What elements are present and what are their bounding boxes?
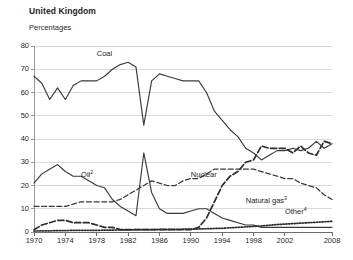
- y-axis-tick-label: 30: [7, 157, 29, 166]
- series-line-coal: [34, 62, 332, 160]
- series-annotation-other: Other4: [285, 207, 307, 216]
- x-axis-tick-label: 2008: [312, 236, 352, 245]
- series-annotation-text: Natural gas: [246, 196, 284, 205]
- gridlines: [34, 46, 332, 209]
- series-annotation-text: Nuclear: [191, 170, 217, 179]
- series-annotation-oil: Oil2: [81, 170, 93, 179]
- y-axis-tick-label: 40: [7, 134, 29, 143]
- y-axis-tick-label: 80: [7, 41, 29, 50]
- series-annotation-text: Oil: [81, 170, 90, 179]
- page-title: United Kingdom: [29, 6, 96, 16]
- chart-svg: [34, 46, 332, 232]
- series-annotation-coal: Coal: [97, 49, 112, 58]
- plot-area: [34, 46, 332, 232]
- y-axis-tick-label: 50: [7, 111, 29, 120]
- x-axis-tick-label: 2002: [265, 236, 305, 245]
- series-annotation-footnote-marker: 4: [304, 206, 307, 212]
- series-annotation-footnote-marker: 2: [90, 169, 93, 175]
- series-annotation-nuclear: Nuclear: [191, 170, 217, 179]
- chart-subtitle: Percentages: [29, 23, 71, 32]
- y-axis-tick-label: 10: [7, 204, 29, 213]
- series-line-nuclear: [34, 169, 332, 206]
- x-tick-marks: [34, 232, 332, 236]
- chart-container: United Kingdom Percentages 0102030405060…: [0, 0, 353, 260]
- series-annotation-footnote-marker: 3: [284, 194, 287, 200]
- series-annotation-text: Coal: [97, 49, 112, 58]
- y-axis-tick-label: 70: [7, 64, 29, 73]
- series-annotation-text: Other: [285, 207, 304, 216]
- y-axis-tick-label: 60: [7, 88, 29, 97]
- y-axis-tick-label: 20: [7, 181, 29, 190]
- series-annotation-natural-gas: Natural gas3: [246, 196, 287, 205]
- y-axis-tick-label: 0: [7, 227, 29, 236]
- data-series: [34, 62, 332, 231]
